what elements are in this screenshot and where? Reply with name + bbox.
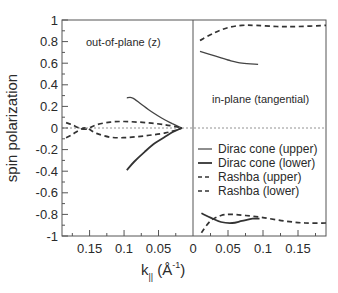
panel-annotation-out-of-plane: out-of-plane (z) bbox=[86, 36, 161, 48]
y-tick-label: 1 bbox=[51, 13, 58, 28]
x-tick-label-left: 0.05 bbox=[146, 241, 171, 256]
x-axis-label-paren-close: ) bbox=[180, 261, 185, 278]
spin-polarization-chart: 10.80.60.40.20-0.2-0.4-0.6-0.8-1 0.150.1… bbox=[0, 0, 338, 293]
y-tick-label: 0.4 bbox=[40, 77, 58, 92]
x-tick-label-right: 0.05 bbox=[215, 241, 240, 256]
series-line-out-of-plane-dirac-cone-lower bbox=[127, 128, 182, 170]
y-axis-ticks: 10.80.60.40.20-0.2-0.4-0.6-0.8-1 bbox=[36, 13, 68, 244]
x-tick-label-left: 0.1 bbox=[115, 241, 133, 256]
x-axis-label-angstrom: Å bbox=[162, 261, 172, 278]
y-tick-label: -0.6 bbox=[36, 185, 58, 200]
y-tick-label: 0.6 bbox=[40, 56, 58, 71]
legend: Dirac cone (upper) Dirac cone (lower) Ra… bbox=[198, 142, 317, 198]
y-tick-label: 0.2 bbox=[40, 99, 58, 114]
series-line-in-plane-rashba-upper bbox=[200, 25, 326, 40]
x-tick-label-right: 0 bbox=[189, 241, 196, 256]
y-tick-label: -0.8 bbox=[36, 207, 58, 222]
series-line-in-plane-dirac-cone-upper bbox=[200, 51, 258, 64]
y-tick-label: -1 bbox=[46, 229, 58, 244]
x-axis-label-subscript: || bbox=[149, 272, 154, 282]
x-tick-label-right: 0.1 bbox=[254, 241, 272, 256]
legend-label-rashba-lower: Rashba (lower) bbox=[218, 184, 299, 198]
panel-annotation-in-plane: in-plane (tangential) bbox=[212, 93, 309, 105]
x-tick-label-left: 0.15 bbox=[77, 241, 102, 256]
x-tick-label-right: 0.15 bbox=[285, 241, 310, 256]
y-tick-label: 0.8 bbox=[40, 34, 58, 49]
series-group bbox=[66, 25, 326, 233]
legend-label-dirac-lower: Dirac cone (lower) bbox=[218, 156, 315, 170]
y-tick-label: -0.2 bbox=[36, 142, 58, 157]
x-axis-ticks: 0.150.10.0500.050.10.15 bbox=[72, 230, 315, 256]
y-tick-label: -0.4 bbox=[36, 164, 58, 179]
series-line-out-of-plane-dirac-cone-upper bbox=[127, 97, 182, 128]
x-axis-label: k||(Å-1) bbox=[141, 260, 185, 282]
series-line-in-plane-rashba-lower bbox=[201, 214, 326, 232]
y-tick-label: 0 bbox=[51, 121, 58, 136]
legend-label-dirac-upper: Dirac cone (upper) bbox=[218, 142, 317, 156]
x-axis-label-superscript: -1 bbox=[172, 260, 180, 270]
legend-label-rashba-upper: Rashba (upper) bbox=[218, 170, 301, 184]
y-axis-label: spin polarization bbox=[3, 74, 20, 182]
